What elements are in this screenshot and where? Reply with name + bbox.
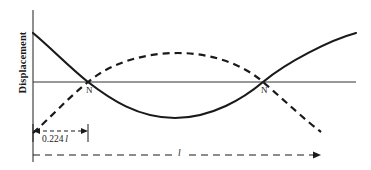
y-axis-label: Displacement <box>17 18 28 108</box>
total-dimension-symbol: l <box>178 148 181 158</box>
node-label-left: N <box>86 85 93 95</box>
node-label-right: N <box>261 85 268 95</box>
partial-dimension-value: 0.224 <box>42 134 65 144</box>
figure-canvas <box>0 0 371 170</box>
mode-shape-figure: Displacement N N 0.224 l l <box>0 0 371 170</box>
dashed-mode-shape-curve <box>33 53 321 133</box>
solid-mode-shape-curve <box>33 33 356 118</box>
partial-dimension-label: 0.224 l <box>42 134 68 144</box>
partial-dimension-arrowhead-right <box>81 128 88 134</box>
partial-dimension-symbol: l <box>65 134 68 144</box>
total-dimension-label: l <box>175 148 184 158</box>
total-dimension-arrowhead-right <box>313 152 321 159</box>
